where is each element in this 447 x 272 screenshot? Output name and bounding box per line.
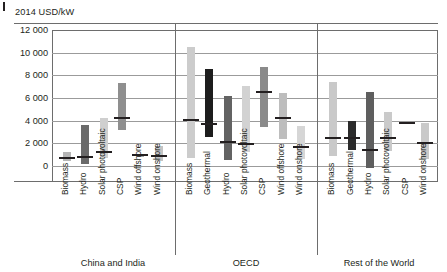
median-marker (344, 137, 360, 139)
x-category-label-hydro: Hydro (221, 173, 231, 195)
y-tick-label-12000: 12 000 (20, 25, 48, 35)
x-category-label-wind-onshore: Wind onshore (418, 143, 428, 195)
median-marker (325, 137, 341, 139)
x-category-label-wind-onshore: Wind onshore (294, 143, 304, 195)
x-category-label-hydro: Hydro (363, 173, 373, 195)
range-bar (329, 82, 337, 156)
x-category-label-geothermal: Geothermal (202, 151, 212, 195)
median-marker (114, 117, 130, 119)
median-marker (77, 156, 93, 158)
range-bar (224, 96, 232, 161)
y-tick-label-10000: 10 000 (20, 48, 48, 58)
median-marker (275, 117, 291, 119)
x-category-label-solar-photovoltaic: Solar photovoltaic (97, 128, 107, 195)
y-tick-label-2000: 2 000 (25, 138, 48, 148)
renewable-capex-range-chart: 2014 USD/kW 12 00010 0008 0006 0004 0002… (0, 0, 447, 272)
x-category-label-geothermal: Geothermal (345, 151, 355, 195)
median-marker (220, 141, 236, 143)
group-divider (317, 23, 318, 255)
x-category-label-wind-offshore: Wind offshore (276, 143, 286, 195)
x-category-label-csp: CSP (257, 178, 267, 195)
x-category-label-csp: CSP (115, 178, 125, 195)
range-bar (348, 121, 356, 150)
median-marker (399, 122, 415, 124)
range-bar (187, 47, 195, 158)
gridline-10000 (52, 53, 438, 54)
x-category-label-solar-photovoltaic: Solar photovoltaic (381, 128, 391, 195)
median-marker (59, 157, 75, 159)
range-bar (81, 125, 89, 164)
median-marker (183, 119, 199, 121)
y-tick-label-8000: 8 000 (25, 70, 48, 80)
gridline-8000 (52, 75, 438, 76)
group-divider (175, 23, 176, 255)
range-bar (260, 67, 268, 127)
median-marker (362, 149, 378, 151)
y-axis-ticks: 12 00010 0008 0006 0004 0002 0000 (0, 30, 48, 166)
x-category-label-solar-photovoltaic: Solar photovoltaic (239, 128, 249, 195)
x-category-label-biomass: Biomass (184, 163, 194, 195)
group-label-rest-of-the-world: Rest of the World (294, 258, 447, 268)
x-category-label-hydro: Hydro (78, 173, 88, 195)
range-bar (366, 92, 374, 168)
x-category-label-csp: CSP (400, 178, 410, 195)
plot-frame-top (14, 23, 438, 24)
x-category-label-biomass: Biomass (326, 163, 336, 195)
y-tick-label-4000: 4 000 (25, 116, 48, 126)
median-marker (201, 123, 217, 125)
axis-unit-label: 2014 USD/kW (15, 7, 74, 17)
y-tick-label-6000: 6 000 (25, 93, 48, 103)
corner-tick-mark (3, 2, 5, 11)
range-bar (205, 69, 213, 137)
gridline-12000 (52, 30, 438, 31)
range-bar (118, 83, 126, 129)
median-marker (256, 91, 272, 93)
x-category-label-biomass: Biomass (60, 163, 70, 195)
x-category-label-wind-offshore: Wind offshore (133, 143, 143, 195)
x-category-label-wind-onshore: Wind onshore (152, 143, 162, 195)
y-tick-label-0: 0 (43, 161, 48, 171)
